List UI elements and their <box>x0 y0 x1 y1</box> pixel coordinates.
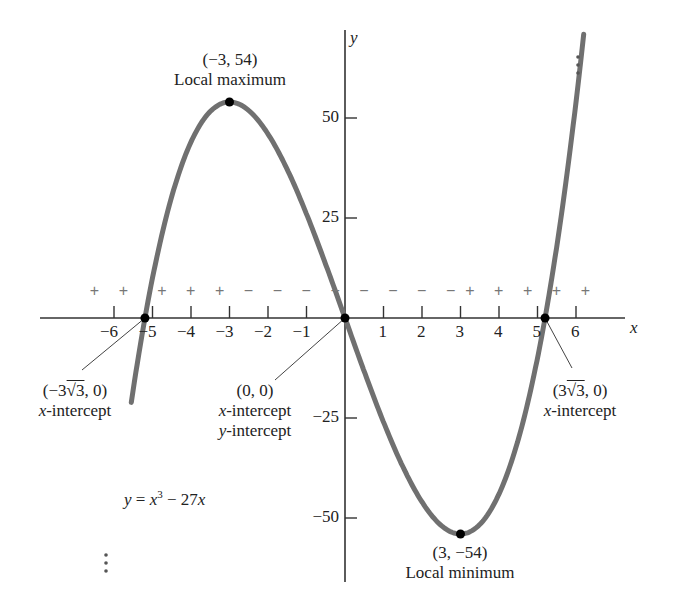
key-point <box>541 314 550 323</box>
origin-label: (0, 0) x-intercept y-intercept <box>205 381 305 441</box>
continuation-dot <box>104 569 108 573</box>
plot-area <box>0 0 678 603</box>
x-tick-label: −6 <box>100 322 118 342</box>
local-max-label: (−3, 54) Local maximum <box>150 50 310 90</box>
x-tick-label: −5 <box>139 322 157 342</box>
sign-marker: + <box>90 282 99 300</box>
continuation-dot <box>104 561 108 565</box>
x-tick-label: −3 <box>216 322 234 342</box>
x-tick-label: 3 <box>456 322 465 342</box>
sign-marker: − <box>417 282 426 300</box>
continuation-dot <box>576 63 580 67</box>
continuation-dot <box>104 553 108 557</box>
right-intercept-label: (3√3, 0) x-intercept <box>525 381 635 421</box>
key-point <box>456 530 465 539</box>
sign-marker: − <box>359 282 368 300</box>
sign-marker: + <box>581 282 590 300</box>
local-min-label: (3, −54) Local minimum <box>380 543 540 583</box>
sign-marker: − <box>388 282 397 300</box>
sign-marker: − <box>302 282 311 300</box>
sign-marker: + <box>523 282 532 300</box>
y-tick-label: −50 <box>312 507 339 527</box>
x-tick-label: 1 <box>379 322 388 342</box>
cubic-curve <box>131 34 583 534</box>
continuation-dot <box>576 71 580 75</box>
y-tick-label: 50 <box>322 107 339 127</box>
x-axis-label: x <box>630 318 638 338</box>
sign-marker: − <box>244 282 253 300</box>
x-tick-label: 2 <box>417 322 426 342</box>
x-tick-label: −2 <box>254 322 272 342</box>
equation-label: y = x3 − 27x <box>124 484 205 510</box>
sign-marker: + <box>465 282 474 300</box>
sign-marker: − <box>330 282 339 300</box>
key-point <box>341 314 350 323</box>
sign-marker: + <box>119 282 128 300</box>
x-tick-label: 4 <box>494 322 503 342</box>
y-tick-label: −25 <box>312 407 339 427</box>
y-axis-label: y <box>350 28 358 48</box>
sign-marker: + <box>494 282 503 300</box>
y-tick-label: 25 <box>322 207 339 227</box>
sign-marker: − <box>446 282 455 300</box>
left-intercept-label: (−3√3, 0) x-intercept <box>20 381 130 421</box>
sign-marker: + <box>215 282 224 300</box>
sign-marker: + <box>186 282 195 300</box>
leader-line <box>545 318 572 368</box>
sign-marker: − <box>273 282 282 300</box>
sign-marker: + <box>157 282 166 300</box>
x-tick-label: 6 <box>571 322 580 342</box>
x-tick-label: 5 <box>533 322 542 342</box>
key-point <box>225 98 234 107</box>
sign-marker: + <box>552 282 561 300</box>
x-tick-label: −1 <box>293 322 311 342</box>
continuation-dot <box>576 55 580 59</box>
x-tick-label: −4 <box>177 322 195 342</box>
